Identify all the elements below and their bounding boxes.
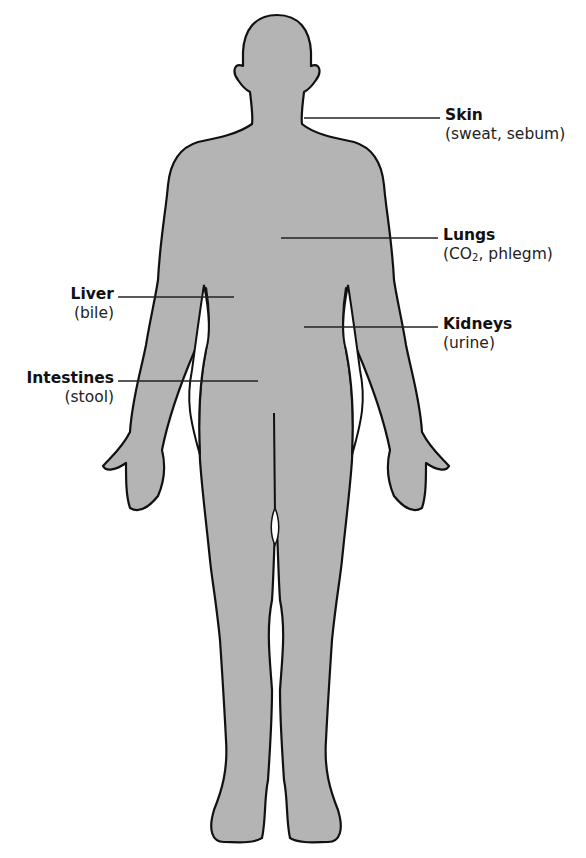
label-liver-name: Liver — [71, 285, 114, 304]
label-kidneys: Kidneys (urine) — [443, 315, 512, 354]
label-intestines: Intestines (stool) — [27, 369, 114, 408]
leg-gap — [271, 508, 279, 545]
label-liver-detail: (bile) — [71, 304, 114, 323]
label-lungs-detail: (CO2, phlegm) — [443, 245, 553, 265]
label-skin: Skin (sweat, sebum) — [445, 106, 565, 145]
label-skin-detail: (sweat, sebum) — [445, 125, 565, 144]
label-skin-name: Skin — [445, 106, 565, 125]
label-lungs-name: Lungs — [443, 226, 553, 245]
label-intestines-name: Intestines — [27, 369, 114, 388]
lungs-detail-prefix: (CO — [443, 245, 472, 263]
body-silhouette — [103, 15, 449, 842]
label-kidneys-detail: (urine) — [443, 334, 512, 353]
label-intestines-detail: (stool) — [27, 388, 114, 407]
label-liver: Liver (bile) — [71, 285, 114, 324]
lungs-detail-suffix: , phlegm) — [478, 245, 552, 263]
label-kidneys-name: Kidneys — [443, 315, 512, 334]
leg-division-line — [274, 413, 275, 515]
label-lungs: Lungs (CO2, phlegm) — [443, 226, 553, 265]
